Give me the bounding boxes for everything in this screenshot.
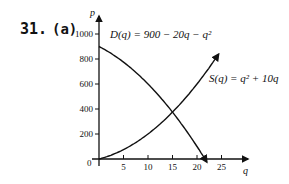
y-tick-label: 600 <box>80 79 94 89</box>
x-tick-label: 20 <box>193 162 203 172</box>
y-tick-label: 800 <box>80 54 94 64</box>
x-tick-label: 15 <box>168 162 178 172</box>
y-axis-label: p <box>89 7 95 18</box>
demand-curve <box>99 47 207 163</box>
y-ticks: 2004006008001000 <box>75 29 99 139</box>
x-tick-label: 10 <box>144 162 154 172</box>
x-tick-label: 25 <box>217 162 227 172</box>
y-tick-label: 200 <box>80 129 94 139</box>
supply-curve <box>99 54 219 159</box>
y-tick-label: 400 <box>80 104 94 114</box>
x-axis-label: q <box>243 165 248 176</box>
supply-label: S(q) = q² + 10q <box>209 72 279 85</box>
origin-label: 0 <box>87 158 92 168</box>
x-ticks: 510152025 <box>121 155 226 172</box>
x-tick-label: 5 <box>121 162 126 172</box>
demand-label: D(q) = 900 − 20q − q² <box>109 28 212 41</box>
y-tick-label: 1000 <box>75 29 94 39</box>
supply-demand-chart: p q 0 2004006008001000 510152025 D(q) = … <box>0 0 289 184</box>
